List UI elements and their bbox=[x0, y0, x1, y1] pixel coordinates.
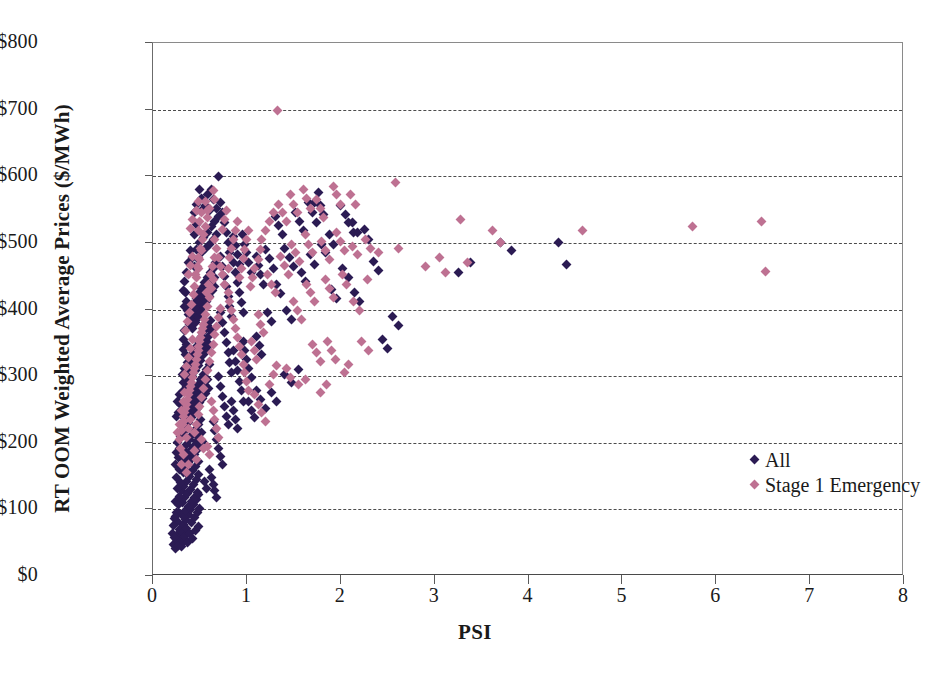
scatter-point bbox=[441, 268, 451, 278]
scatter-point bbox=[266, 388, 276, 398]
scatter-point bbox=[233, 423, 243, 433]
scatter-point bbox=[325, 255, 335, 265]
y-axis-tick-label: $700 bbox=[0, 98, 38, 118]
scatter-point bbox=[554, 238, 564, 248]
scatter-point bbox=[204, 450, 214, 460]
y-axis-tick-label: $0 bbox=[0, 564, 38, 584]
scatter-point bbox=[561, 259, 571, 269]
scatter-point bbox=[273, 106, 283, 116]
legend-label: Stage 1 Emergency bbox=[765, 475, 920, 495]
x-axis-tick-label: 4 bbox=[498, 584, 558, 606]
x-axis-tick-label: 8 bbox=[873, 584, 933, 606]
scatter-point bbox=[214, 171, 224, 181]
scatter-point bbox=[760, 267, 770, 277]
scatter-point bbox=[315, 388, 325, 398]
scatter-point bbox=[266, 317, 276, 327]
scatter-point bbox=[351, 199, 361, 209]
x-axis-tick-mark bbox=[715, 575, 716, 584]
scatter-point bbox=[322, 379, 332, 389]
x-axis-tick-mark bbox=[528, 575, 529, 584]
x-axis-tick-label: 0 bbox=[122, 584, 182, 606]
y-axis-tick-label: $200 bbox=[0, 431, 38, 451]
scatter-point bbox=[353, 250, 363, 260]
scatter-point bbox=[296, 315, 306, 325]
scatter-point bbox=[364, 346, 374, 356]
x-axis-tick-label: 7 bbox=[779, 584, 839, 606]
scatter-point bbox=[283, 270, 293, 280]
scatter-point bbox=[350, 287, 360, 297]
scatter-point bbox=[688, 221, 698, 231]
scatter-point bbox=[257, 235, 267, 245]
x-axis-tick-mark bbox=[152, 575, 153, 584]
x-axis-tick-mark bbox=[903, 575, 904, 584]
scatter-point bbox=[390, 178, 400, 188]
x-axis-tick-mark bbox=[809, 575, 810, 584]
y-axis-tick-label: $300 bbox=[0, 364, 38, 384]
chart-figure: RT OOM Weighted Average Prices ($/MWh) $… bbox=[0, 0, 950, 678]
scatter-point bbox=[268, 370, 278, 380]
x-axis-tick-mark bbox=[246, 575, 247, 584]
scatter-point bbox=[216, 381, 226, 391]
scatter-point bbox=[233, 217, 243, 227]
scatter-point bbox=[373, 248, 383, 258]
scatter-point bbox=[278, 230, 288, 240]
scatter-point bbox=[310, 259, 320, 269]
x-axis-tick-label: 3 bbox=[404, 584, 464, 606]
scatter-point bbox=[310, 297, 320, 307]
scatter-point bbox=[219, 328, 229, 338]
scatter-point bbox=[369, 257, 379, 267]
scatter-point bbox=[281, 306, 291, 316]
scatter-point bbox=[246, 281, 256, 291]
scatter-point bbox=[356, 337, 366, 347]
x-axis-tick-label: 1 bbox=[216, 584, 276, 606]
scatter-point bbox=[756, 217, 766, 227]
scatter-point bbox=[212, 492, 222, 502]
y-axis-tick-label: $100 bbox=[0, 497, 38, 517]
scatter-point bbox=[330, 355, 340, 365]
y-axis-tick-label: $500 bbox=[0, 231, 38, 251]
scatter-point bbox=[229, 315, 239, 325]
x-axis-tick-label: 5 bbox=[591, 584, 651, 606]
y-axis-tick-label: $800 bbox=[0, 31, 38, 51]
scatter-point bbox=[456, 215, 466, 225]
scatter-point bbox=[488, 226, 498, 236]
scatter-point bbox=[315, 357, 325, 367]
scatter-point bbox=[355, 306, 365, 316]
legend-marker-icon bbox=[750, 480, 760, 490]
y-axis-tick-label: $600 bbox=[0, 164, 38, 184]
scatter-point bbox=[453, 268, 463, 278]
scatter-point bbox=[394, 321, 404, 331]
scatter-point bbox=[229, 406, 239, 416]
legend-label: All bbox=[765, 450, 791, 470]
scatter-point bbox=[264, 379, 274, 389]
scatter-point bbox=[294, 365, 304, 375]
scatter-point bbox=[387, 311, 397, 321]
scatter-point bbox=[394, 243, 404, 253]
scatter-point bbox=[285, 190, 295, 200]
x-axis-tick-label: 2 bbox=[310, 584, 370, 606]
x-axis-title: PSI bbox=[0, 620, 950, 645]
scatter-point bbox=[362, 275, 372, 285]
scatter-point bbox=[383, 343, 393, 353]
scatter-point bbox=[238, 308, 248, 318]
scatter-point bbox=[272, 396, 282, 406]
x-axis-tick-mark bbox=[621, 575, 622, 584]
x-axis-tick-mark bbox=[434, 575, 435, 584]
scatter-point bbox=[420, 261, 430, 271]
scatter-point bbox=[231, 323, 241, 333]
scatter-point bbox=[434, 253, 444, 263]
scatter-point bbox=[495, 238, 505, 248]
x-axis-tick-label: 6 bbox=[685, 584, 745, 606]
scatter-point bbox=[214, 371, 224, 381]
y-axis-title: RT OOM Weighted Average Prices ($/MWh) bbox=[50, 9, 75, 609]
legend-marker-icon bbox=[750, 455, 760, 465]
scatter-point bbox=[234, 288, 244, 298]
scatter-point bbox=[218, 391, 228, 401]
scatter-point bbox=[261, 416, 271, 426]
x-axis-tick-mark bbox=[340, 575, 341, 584]
scatter-point bbox=[221, 338, 231, 348]
scatter-point bbox=[236, 298, 246, 308]
scatter-point bbox=[507, 246, 517, 256]
y-axis-tick-label: $400 bbox=[0, 298, 38, 318]
scatter-point bbox=[253, 310, 263, 320]
